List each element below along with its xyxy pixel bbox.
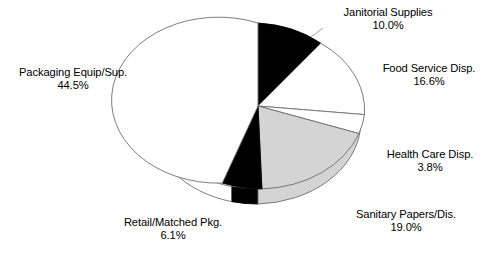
- pie-label-value: 19.0%: [330, 221, 482, 234]
- pie-label-sanitary-papers-dis: Sanitary Papers/Dis. 19.0%: [330, 208, 482, 235]
- pie-label-packaging-equip-sup: Packaging Equip/Sup. 44.5%: [2, 66, 144, 93]
- pie-label-value: 10.0%: [308, 19, 468, 32]
- pie-side-wall-retail: [232, 187, 258, 204]
- pie-label-name: Sanitary Papers/Dis.: [330, 208, 482, 221]
- pie-label-value: 3.8%: [372, 161, 488, 174]
- pie-label-name: Packaging Equip/Sup.: [2, 66, 144, 79]
- pie-label-value: 44.5%: [2, 79, 144, 92]
- pie-label-name: Health Care Disp.: [372, 148, 488, 161]
- pie-label-name: Retail/Matched Pkg.: [88, 216, 258, 229]
- pie-label-food-service-disp: Food Service Disp. 16.6%: [370, 62, 488, 89]
- pie-label-janitorial-supplies: Janitorial Supplies 10.0%: [308, 6, 468, 33]
- pie-label-health-care-disp: Health Care Disp. 3.8%: [372, 148, 488, 175]
- pie-label-value: 16.6%: [370, 75, 488, 88]
- pie-label-name: Food Service Disp.: [370, 62, 488, 75]
- pie-label-name: Janitorial Supplies: [308, 6, 468, 19]
- pie-label-retail-matched-pkg: Retail/Matched Pkg. 6.1%: [88, 216, 258, 243]
- pie-label-value: 6.1%: [88, 229, 258, 242]
- pie-chart: Janitorial Supplies 10.0% Food Service D…: [0, 0, 490, 253]
- pie-slices: [112, 17, 365, 189]
